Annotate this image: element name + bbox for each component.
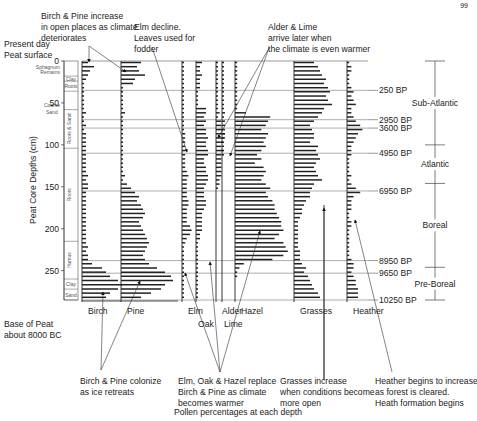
pollen-diagram: SphagnumRemainsClayRootsCoarseSandRoots … — [0, 0, 477, 421]
climate-zones: Sub-AtlanticAtlanticBorealPre-Boreal — [407, 61, 463, 300]
taxon-column-lime — [222, 61, 225, 302]
taxon-label-oak: Oak — [198, 319, 214, 329]
taxon-column-oak — [196, 61, 208, 302]
annotation-alder-lime: the climate is even warmer — [268, 44, 370, 54]
date-labels: 250 BP2950 BP3600 BP4950 BP6950 BP8950 B… — [368, 85, 417, 305]
annotation-birch-pine-colonize: Birch & Pine colonize — [80, 376, 161, 386]
x-axis-label: Pollen percentages at each depth — [174, 407, 302, 417]
taxon-column-birch — [82, 61, 122, 302]
taxon-label-grasses: Grasses — [300, 306, 332, 316]
annotation-elm-decline: Leaves used for — [134, 33, 195, 43]
taxon-label-heather: Heather — [353, 306, 384, 316]
taxon-column-grasses — [294, 61, 332, 302]
arrow-line — [230, 48, 269, 156]
strat-label: Roots & Sand — [66, 113, 72, 144]
pollen-diagram-svg: SphagnumRemainsClayRootsCoarseSandRoots … — [0, 0, 477, 421]
annotation-heather: Heath formation begins — [375, 398, 464, 408]
date-label: 9650 BP — [379, 268, 412, 278]
pollen-bars: BirchPineElmOakAlderLimeHazelGrassesHeat… — [82, 61, 384, 329]
taxon-label-elm: Elm — [188, 306, 203, 316]
strat-label: Sand — [46, 109, 58, 115]
annotation-birch-pine-colonize: as ice retreats — [80, 387, 134, 397]
annotation-elm-oak-hazel: becomes warmer — [178, 398, 244, 408]
annotation-heather: Heather begins to increase — [375, 376, 477, 386]
taxon-label-birch: Birch — [88, 306, 108, 316]
base-of-peat-label: Base of Peat — [4, 319, 54, 329]
taxon-column-alder — [216, 61, 225, 302]
taxon-label-alder: Alder — [222, 306, 242, 316]
annotation-elm-oak-hazel: Birch & Pine as climate — [178, 387, 267, 397]
depth-tick-label: 0 — [54, 56, 59, 66]
page-number: 99 — [460, 2, 468, 9]
strat-label: Clay — [66, 76, 77, 82]
arrow-line — [218, 48, 269, 138]
y-axis-label: Peat Core Depths (cm) — [28, 136, 38, 224]
depth-tick-label: 100 — [45, 140, 60, 150]
date-label: 6950 BP — [379, 186, 412, 196]
taxon-column-heather — [347, 61, 362, 302]
taxon-label-pine: Pine — [127, 306, 144, 316]
peat-surface-label: Peat surface — [4, 50, 52, 60]
zone-label-atlantic: Atlantic — [421, 159, 450, 169]
zone-label-sub-atlantic: Sub-Atlantic — [412, 98, 459, 108]
arrow-line — [185, 273, 220, 372]
annotation-elm-decline: fodder — [134, 44, 159, 54]
arrow-line — [101, 281, 140, 370]
taxon-label-hazel: Hazel — [241, 306, 263, 316]
annotation-birch-pine-increase: in open places as climate — [41, 22, 138, 32]
taxon-column-pine — [121, 61, 173, 302]
arrow-line — [210, 262, 220, 372]
annotation-elm-oak-hazel: Elm, Oak & Hazel replace — [178, 376, 277, 386]
base-date-label: about 8000 BC — [4, 330, 61, 340]
annotation-elm-decline: Elm decline. — [134, 22, 181, 32]
date-label: 250 BP — [379, 85, 407, 95]
annotation-alder-lime: arrive later when — [268, 33, 332, 43]
taxon-column-hazel — [235, 61, 288, 302]
strat-label: Humus — [66, 252, 72, 268]
strat-label: Remains — [40, 69, 60, 75]
annotation-grasses: more open — [280, 398, 321, 408]
taxon-column-elm — [182, 61, 192, 302]
date-label: 4950 BP — [379, 148, 412, 158]
stratigraphy-column: SphagnumRemainsClayRootsCoarseSandRoots … — [36, 61, 78, 300]
date-label: 10250 BP — [379, 295, 417, 305]
date-label: 8950 BP — [379, 256, 412, 266]
strat-label: Clay — [66, 281, 77, 287]
annotation-alder-lime: Alder & Lime — [268, 22, 317, 32]
strat-label: Roots — [64, 83, 78, 89]
strat-label: Sand — [65, 292, 77, 298]
depth-tick-label: 50 — [49, 98, 59, 108]
annotation-grasses: when conditions become — [279, 387, 375, 397]
annotation-birch-pine-increase: deteriorates — [41, 33, 86, 43]
arrow-line — [220, 231, 260, 372]
arrow-line — [89, 46, 126, 72]
depth-axis: 050100150200250Peat Core Depths (cm)Pres… — [4, 39, 302, 417]
annotation-grasses: Grasses increase — [280, 376, 347, 386]
annotation-heather: as forest is cleared. — [375, 387, 450, 397]
depth-tick-label: 150 — [45, 182, 60, 192]
depth-tick-label: 200 — [45, 224, 60, 234]
strat-label: Roots — [66, 188, 72, 202]
arrow-line — [101, 292, 103, 370]
zone-label-boreal: Boreal — [423, 220, 448, 230]
date-label: 3600 BP — [379, 123, 412, 133]
depth-tick-label: 250 — [45, 266, 60, 276]
annotation-birch-pine-increase: Birch & Pine increase — [41, 11, 123, 21]
zone-label-pre-boreal: Pre-Boreal — [414, 279, 455, 289]
